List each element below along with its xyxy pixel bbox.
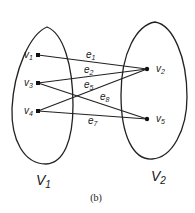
node-label-v5: v5 — [156, 113, 165, 125]
node-label-v1: v1 — [24, 49, 33, 61]
bipartite-graph-figure: v1 v3 v4 v2 v5 e1 e2 e5 e8 e7 V1 V2 (b) — [0, 0, 195, 213]
node-v5 — [145, 117, 149, 121]
node-label-v3: v3 — [24, 77, 33, 89]
node-label-v2: v2 — [156, 63, 165, 75]
partition-label-v1: V1 — [36, 172, 51, 190]
partition-v1-outline — [12, 27, 73, 164]
edge-label-e5: e5 — [84, 79, 94, 91]
node-v4 — [36, 109, 40, 113]
partition-v2-outline — [121, 22, 187, 159]
node-v2 — [145, 67, 149, 71]
edge-label-e8: e8 — [100, 91, 110, 103]
node-v3 — [36, 81, 40, 85]
edge-label-e7: e7 — [88, 115, 99, 127]
figure-caption: (b) — [90, 192, 102, 204]
node-label-v4: v4 — [24, 105, 33, 117]
edge-label-e1: e1 — [86, 49, 96, 61]
edge-label-e2: e2 — [84, 64, 94, 76]
node-v1 — [36, 53, 40, 57]
partition-label-v2: V2 — [151, 168, 166, 186]
